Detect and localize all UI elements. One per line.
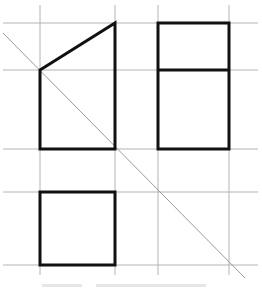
side-view — [158, 23, 229, 149]
front-view — [40, 23, 115, 149]
caption-faint — [42, 284, 206, 287]
view-outlines — [40, 23, 229, 265]
orthographic-drawing — [0, 0, 262, 292]
top-view — [40, 192, 115, 265]
